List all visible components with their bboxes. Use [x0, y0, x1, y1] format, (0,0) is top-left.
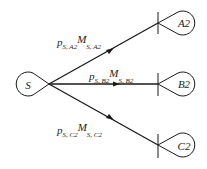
edge-label-b2-p-sub: S, B2 — [95, 77, 110, 85]
node-s-shape — [16, 72, 49, 96]
edge-label-c2-m-sub: S, C2 — [87, 131, 102, 139]
edge-label-a2-p: p — [57, 36, 63, 48]
node-a2-label: A2 — [178, 18, 190, 29]
edge-label-a2-p-sub: S, A2 — [63, 43, 78, 51]
edge-label-c2-p: p — [57, 124, 63, 136]
edge-label-c2: pS, C2MS, C2 — [57, 121, 102, 137]
edge-label-a2-m-sub: S, A2 — [86, 43, 101, 51]
edge-label-c2-m: M — [78, 121, 87, 133]
arrow-icon-c2 — [106, 114, 114, 120]
node-b2-label: B2 — [178, 79, 190, 90]
node-s-label: S — [25, 80, 31, 91]
edge-label-c2-p-sub: S, C2 — [63, 131, 78, 139]
edge-label-a2-m: M — [77, 33, 86, 45]
edge-label-a2: pS, A2MS, A2 — [57, 33, 101, 49]
node-c2-label: C2 — [178, 141, 191, 152]
edge-label-b2-m-sub: S, B2 — [118, 77, 133, 85]
arrow-icon-a2 — [106, 48, 114, 54]
edge-label-b2-p: p — [89, 70, 95, 82]
edge-label-b2: pS, B2MS, B2 — [89, 67, 133, 83]
